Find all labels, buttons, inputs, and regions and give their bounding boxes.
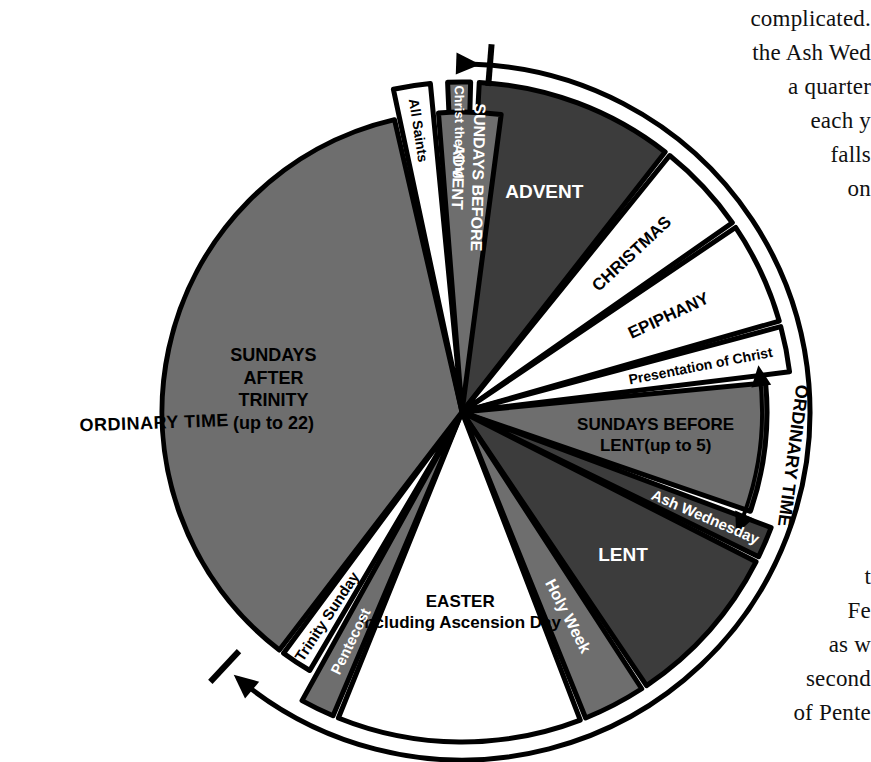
- arc-end-tick: [488, 44, 491, 86]
- body-text-top-line: falls: [611, 138, 871, 172]
- sector-label-line: LENT(up to 5): [600, 436, 711, 455]
- body-text-top-line: a quarter: [611, 70, 871, 104]
- body-text-top-line: complicated.: [611, 2, 871, 36]
- sector-label-line: AFTER: [243, 368, 303, 388]
- arc-end-tick: [210, 651, 239, 682]
- page-body-text-top: complicated.the Ash Weda quartereach yfa…: [611, 2, 871, 206]
- sector-label-line: TRINITY: [238, 390, 308, 410]
- sector-label-line: (up to 22): [233, 413, 314, 433]
- sector-label-line: EASTER: [426, 592, 495, 611]
- body-text-bottom-line: second: [611, 662, 871, 696]
- body-text-bottom-line: t: [611, 560, 871, 594]
- body-text-top-line: each y: [611, 104, 871, 138]
- page-body-text-bottom: tFeas wsecondof Pente: [611, 560, 871, 730]
- body-text-top-line: on: [611, 172, 871, 206]
- arrowhead-start-icon: [456, 53, 481, 76]
- body-text-top-line: the Ash Wed: [611, 36, 871, 70]
- sector-label-line: SUNDAYS BEFORE: [577, 415, 734, 434]
- body-text-bottom-line: of Pente: [611, 696, 871, 730]
- body-text-bottom-line: as w: [611, 628, 871, 662]
- sector-label-advent: ADVENT: [505, 181, 584, 202]
- sector-label-line: ADVENT: [505, 181, 584, 202]
- sector-label-line: Including Ascension Day: [359, 613, 561, 632]
- sector-label-line: SUNDAYS: [230, 345, 316, 365]
- body-text-bottom-line: Fe: [611, 594, 871, 628]
- sector-label-line: ADVENT: [449, 144, 468, 210]
